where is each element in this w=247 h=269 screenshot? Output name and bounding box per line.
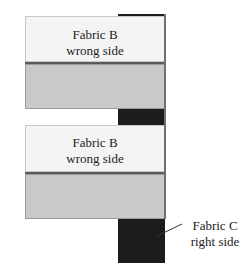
bottom-fabric-b-panel: Fabric B wrong side [25, 125, 165, 172]
right-edge-line [164, 14, 166, 219]
callout-leader-line [155, 220, 185, 240]
top-fabric-b-label: Fabric B wrong side [26, 17, 164, 59]
bottom-gray-band [25, 174, 165, 219]
fabric-c-callout: Fabric C right side [183, 218, 247, 250]
top-fabric-b-panel: Fabric B wrong side [25, 16, 165, 62]
fabric-c-middle-block [118, 109, 165, 125]
top-gray-band [25, 64, 165, 109]
bottom-fabric-b-label: Fabric B wrong side [26, 126, 164, 167]
